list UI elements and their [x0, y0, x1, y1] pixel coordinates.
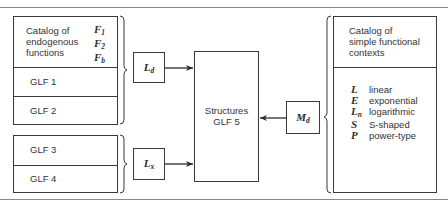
brace-right	[324, 16, 331, 193]
connectors-overlay	[0, 0, 448, 205]
brace-group-2	[120, 135, 127, 193]
brace-group-1	[120, 16, 127, 124]
